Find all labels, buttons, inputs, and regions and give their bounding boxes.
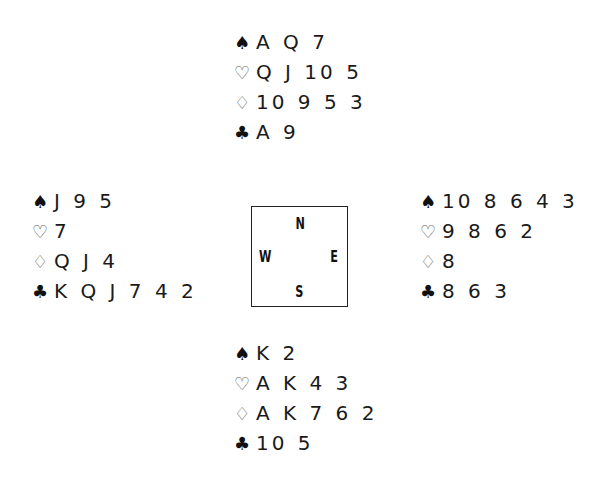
compass-north-label: N xyxy=(296,215,305,233)
north-hand: ♠A Q 7 ♡Q J 10 5 ♢10 9 5 3 ♣A 9 xyxy=(234,27,366,147)
east-spades: ♠10 8 6 4 3 xyxy=(420,186,578,216)
diamond-icon: ♢ xyxy=(420,247,442,277)
heart-icon: ♡ xyxy=(32,217,54,247)
north-spades: ♠A Q 7 xyxy=(234,27,366,57)
south-hand: ♠K 2 ♡A K 4 3 ♢A K 7 6 2 ♣10 5 xyxy=(234,338,377,458)
east-diamonds: ♢8 xyxy=(420,246,578,276)
south-clubs: ♣10 5 xyxy=(234,428,377,458)
club-icon: ♣ xyxy=(32,277,54,307)
club-icon: ♣ xyxy=(234,429,256,459)
compass-box: N W E S xyxy=(251,206,348,307)
east-hearts: ♡9 8 6 2 xyxy=(420,216,578,246)
compass-west-label: W xyxy=(259,248,271,266)
club-icon: ♣ xyxy=(234,118,256,148)
east-hand: ♠10 8 6 4 3 ♡9 8 6 2 ♢8 ♣8 6 3 xyxy=(420,186,578,306)
spade-icon: ♠ xyxy=(420,187,442,217)
west-hearts: ♡7 xyxy=(32,216,197,246)
south-diamonds: ♢A K 7 6 2 xyxy=(234,398,377,428)
compass-east-label: E xyxy=(330,248,338,266)
diamond-icon: ♢ xyxy=(234,88,256,118)
west-clubs: ♣K Q J 7 4 2 xyxy=(32,276,197,306)
south-spades: ♠K 2 xyxy=(234,338,377,368)
club-icon: ♣ xyxy=(420,277,442,307)
north-diamonds: ♢10 9 5 3 xyxy=(234,87,366,117)
heart-icon: ♡ xyxy=(234,369,256,399)
diamond-icon: ♢ xyxy=(32,247,54,277)
north-clubs: ♣A 9 xyxy=(234,117,366,147)
diamond-icon: ♢ xyxy=(234,399,256,429)
west-hand: ♠J 9 5 ♡7 ♢Q J 4 ♣K Q J 7 4 2 xyxy=(32,186,197,306)
spade-icon: ♠ xyxy=(32,187,54,217)
west-diamonds: ♢Q J 4 xyxy=(32,246,197,276)
heart-icon: ♡ xyxy=(234,58,256,88)
compass-south-label: S xyxy=(295,283,303,301)
east-clubs: ♣8 6 3 xyxy=(420,276,578,306)
heart-icon: ♡ xyxy=(420,217,442,247)
spade-icon: ♠ xyxy=(234,28,256,58)
north-hearts: ♡Q J 10 5 xyxy=(234,57,366,87)
south-hearts: ♡A K 4 3 xyxy=(234,368,377,398)
west-spades: ♠J 9 5 xyxy=(32,186,197,216)
spade-icon: ♠ xyxy=(234,339,256,369)
